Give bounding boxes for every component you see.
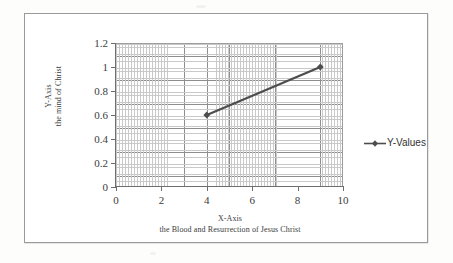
series-marker-diamond [203,112,210,119]
x-tick-mark [116,187,117,191]
y-axis-title: Y-Axis the mind of Christ [44,41,64,151]
x-tick-label: 8 [283,194,313,206]
x-tick-label: 4 [192,194,222,206]
series-line [207,67,320,115]
y-tick-mark [111,115,115,116]
y-tick-mark [111,187,115,188]
x-tick-mark [207,187,208,191]
series-marker-diamond [317,64,324,71]
scanned-page-background: 0 2 4 6 8 10 0 0.2 0.4 0.6 0.8 1 1.2 X-A… [0,0,453,263]
legend-item-label: Y-Values [387,137,426,149]
y-tick-mark [111,91,115,92]
x-tick-mark [161,187,162,191]
y-tick-mark [111,163,115,164]
x-axis-title: X-Axis the Blood and Resurrection of Jes… [116,213,344,235]
y-axis-title-line2: the mind of Christ [54,41,64,151]
y-tick-label: 0 [78,181,108,193]
y-tick-mark [111,67,115,68]
x-axis-title-line2: the Blood and Resurrection of Jesus Chri… [116,224,344,235]
y-tick-mark [111,139,115,140]
y-axis-title-line1: Y-Axis [44,41,54,151]
x-tick-mark [252,187,253,191]
y-tick-mark [111,43,115,44]
y-tick-label: 0.4 [78,133,108,145]
x-tick-label: 10 [328,194,358,206]
scan-artifact [150,252,156,255]
legend-marker-icon [364,138,386,149]
x-tick-mark [343,187,344,191]
x-axis-title-line1: X-Axis [116,213,344,224]
scan-artifact [196,5,206,8]
y-tick-label: 1 [78,61,108,73]
chart-legend[interactable]: Y-Values [364,137,426,149]
data-series-y-values[interactable] [116,43,343,187]
y-tick-label: 0.6 [78,109,108,121]
x-tick-label: 0 [101,194,131,206]
x-tick-label: 6 [237,194,267,206]
chart-container[interactable]: 0 2 4 6 8 10 0 0.2 0.4 0.6 0.8 1 1.2 X-A… [24,13,428,243]
x-tick-label: 2 [146,194,176,206]
y-tick-label: 0.2 [78,157,108,169]
y-tick-label: 0.8 [78,85,108,97]
x-tick-mark [298,187,299,191]
y-tick-label: 1.2 [78,37,108,49]
